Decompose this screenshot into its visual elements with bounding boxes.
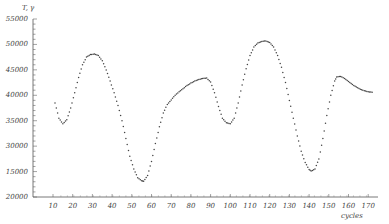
data-point (255, 45, 256, 47)
data-point (264, 40, 266, 42)
data-point (334, 80, 336, 82)
data-point (240, 90, 242, 92)
data-point (79, 72, 81, 74)
data-point (231, 121, 233, 123)
data-point (219, 110, 221, 112)
data-point (241, 84, 243, 86)
data-point (277, 55, 279, 57)
data-point (360, 88, 362, 90)
data-point (174, 95, 176, 97)
data-point (140, 179, 142, 181)
data-point (61, 121, 63, 123)
data-point (262, 40, 264, 42)
data-point (300, 150, 302, 152)
data-point (371, 91, 373, 93)
data-point (173, 96, 175, 98)
data-point (58, 117, 60, 119)
data-point (370, 91, 372, 93)
data-point (317, 161, 319, 163)
data-point (157, 132, 159, 134)
data-point (102, 60, 104, 62)
data-point (132, 164, 134, 166)
data-point (274, 49, 276, 51)
data-point (258, 42, 260, 44)
data-point (279, 63, 281, 65)
y-tick-label: 30000 (0, 142, 28, 150)
data-point (329, 101, 331, 103)
plot-svg (0, 0, 389, 224)
chart-area (0, 0, 389, 224)
data-point (147, 175, 149, 177)
data-point (335, 78, 337, 80)
data-point (160, 121, 162, 123)
data-point (245, 68, 247, 70)
data-point (316, 165, 318, 167)
data-point (92, 54, 94, 56)
data-point (349, 82, 351, 84)
data-point (290, 106, 292, 108)
data-point (287, 94, 289, 96)
data-point (109, 80, 111, 82)
data-point (111, 84, 113, 86)
data-point (177, 92, 179, 94)
data-point (365, 90, 367, 92)
x-tick-label: 120 (260, 202, 280, 210)
data-point (107, 73, 109, 75)
data-point (340, 76, 342, 78)
data-point (143, 180, 145, 182)
data-point (165, 107, 167, 109)
data-point (167, 104, 169, 106)
data-point (253, 46, 255, 48)
data-point (115, 96, 117, 98)
data-point (364, 90, 366, 92)
y-tick-label: 45000 (0, 66, 28, 74)
x-tick-label: 80 (181, 202, 201, 210)
x-tick-label: 140 (299, 202, 319, 210)
data-point (307, 166, 309, 168)
data-point (185, 86, 187, 88)
data-point (228, 123, 230, 125)
data-point (120, 115, 122, 117)
data-point (230, 123, 232, 125)
data-point (83, 61, 85, 63)
data-point (248, 59, 250, 61)
data-point (346, 80, 348, 82)
data-point (156, 137, 158, 139)
data-point (320, 151, 322, 153)
data-point (203, 78, 205, 80)
data-point (74, 92, 76, 94)
data-point (121, 120, 123, 122)
data-point (281, 67, 283, 69)
data-point (128, 150, 130, 152)
x-axis-unit-label: cycles (341, 212, 363, 220)
data-point (152, 155, 154, 157)
data-point (265, 40, 267, 42)
data-point (342, 77, 344, 79)
y-tick-label: 20000 (0, 193, 28, 201)
data-point (80, 68, 82, 70)
data-point (207, 79, 209, 81)
data-point (336, 76, 338, 78)
data-point (286, 88, 288, 90)
data-point (276, 52, 278, 54)
data-point (282, 72, 284, 74)
data-point (86, 56, 88, 58)
data-point (352, 84, 354, 86)
data-point (151, 161, 153, 163)
data-point (124, 132, 126, 134)
data-point (99, 57, 101, 59)
data-point (194, 80, 196, 82)
data-point (66, 119, 68, 121)
data-point (243, 79, 245, 81)
data-point (134, 171, 136, 173)
data-point (123, 126, 125, 128)
data-point (237, 102, 239, 104)
x-tick-label: 60 (142, 202, 162, 210)
data-point (108, 77, 110, 79)
data-point (224, 120, 226, 122)
data-point (354, 86, 356, 88)
data-point (294, 123, 296, 125)
data-point (130, 160, 132, 162)
data-point (325, 123, 327, 125)
data-point (188, 84, 190, 86)
